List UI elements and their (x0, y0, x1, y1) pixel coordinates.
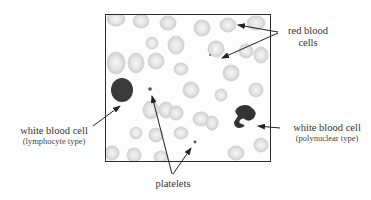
arrow-lymphocyte (93, 106, 120, 126)
arrow-platelet-2 (173, 148, 191, 174)
arrow-rbc-1 (238, 25, 278, 32)
arrow-polynuclear (258, 126, 280, 128)
label-polynuclear: white blood cell (polynuclear type) (284, 122, 370, 143)
blood-smear-diagram: red blood cells white blood cell (lympho… (0, 0, 371, 200)
label-platelets: platelets (145, 178, 201, 190)
arrow-platelet-1 (152, 96, 172, 174)
label-red-blood-cells: red blood cells (278, 25, 338, 48)
label-lymphocyte: white blood cell (lymphocyte type) (12, 125, 96, 146)
arrow-rbc-2 (222, 33, 278, 58)
